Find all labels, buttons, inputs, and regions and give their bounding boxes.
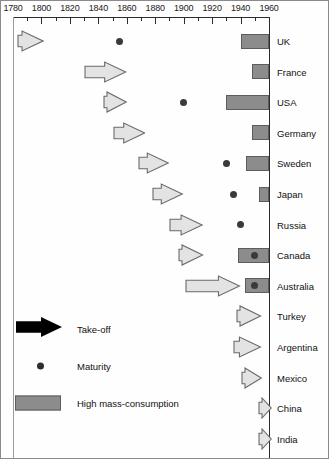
country-label-canada: Canada [277, 250, 310, 261]
take-off-arrow [103, 91, 127, 113]
legend-item-dot: Maturity [15, 354, 245, 378]
country-label-france: France [277, 66, 307, 77]
country-label-sweden: Sweden [277, 158, 311, 169]
legend-dot-icon [37, 363, 44, 370]
country-label-australia: Australia [277, 280, 314, 291]
maturity-dot [223, 160, 230, 167]
legend-item-bar: High mass-consumption [15, 391, 245, 415]
maturity-dot [251, 252, 258, 259]
chart-row: UK [1, 28, 329, 54]
chart-row: USA [1, 89, 329, 115]
high-mass-consumption-bar [226, 95, 269, 110]
chart-row: Canada [1, 242, 329, 268]
high-mass-consumption-bar [241, 34, 269, 49]
take-off-arrow [258, 428, 272, 450]
maturity-dot [116, 38, 123, 45]
high-mass-consumption-bar [246, 156, 269, 171]
take-off-arrow [138, 152, 169, 174]
take-off-arrow [113, 122, 146, 144]
country-label-china: China [277, 403, 302, 414]
country-label-russia: Russia [277, 219, 306, 230]
legend-item-arrow: Take-off [15, 317, 245, 341]
maturity-dot [180, 99, 187, 106]
country-label-india: India [277, 433, 298, 444]
country-label-mexico: Mexico [277, 372, 307, 383]
country-label-germany: Germany [277, 127, 316, 138]
chart-row: Russia [1, 212, 329, 238]
chart-row: Sweden [1, 150, 329, 176]
high-mass-consumption-bar [252, 64, 269, 79]
chart-row: France [1, 59, 329, 85]
country-label-japan: Japan [277, 189, 303, 200]
chart-row: India [1, 426, 329, 452]
legend-label: High mass-consumption [77, 398, 179, 409]
chart-row: Germany [1, 120, 329, 146]
take-off-arrow [185, 275, 240, 297]
legend-label: Maturity [77, 361, 111, 372]
country-label-turkey: Turkey [277, 311, 306, 322]
take-off-arrow [17, 30, 44, 52]
country-label-argentina: Argentina [277, 342, 318, 353]
high-mass-consumption-bar [252, 125, 269, 140]
legend-arrow-icon [15, 316, 63, 342]
legend-label: Take-off [77, 324, 111, 335]
take-off-arrow [178, 244, 204, 266]
rostow-stages-chart: 1780180018201840186018801900192019401960… [0, 0, 329, 459]
take-off-arrow [84, 61, 127, 83]
country-label-usa: USA [277, 97, 297, 108]
country-label-uk: UK [277, 36, 290, 47]
high-mass-consumption-bar [259, 187, 269, 202]
chart-row: Australia [1, 273, 329, 299]
take-off-arrow [258, 397, 272, 419]
chart-row: Japan [1, 181, 329, 207]
take-off-arrow [169, 214, 203, 236]
take-off-arrow [152, 183, 183, 205]
maturity-dot [237, 221, 244, 228]
maturity-dot [230, 191, 237, 198]
legend-bar-icon [15, 396, 61, 411]
